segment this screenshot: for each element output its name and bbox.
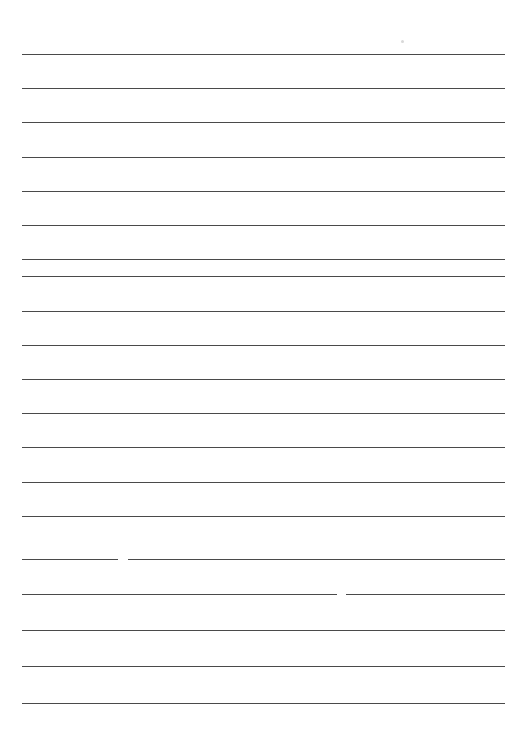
rule-line [22, 225, 505, 226]
rule-line [22, 311, 505, 312]
rule-line [22, 482, 505, 483]
rule-line [22, 447, 505, 448]
rule-line [22, 122, 505, 123]
rule-line [22, 379, 505, 380]
rule-line [22, 666, 505, 667]
rule-line [22, 54, 505, 55]
rule-line [22, 703, 505, 704]
rule-line-segment [22, 594, 337, 595]
rule-line [22, 191, 505, 192]
rule-line [22, 276, 505, 277]
lined-paper-page [0, 0, 525, 729]
rule-line [22, 88, 505, 89]
rule-line [22, 345, 505, 346]
rule-line [22, 630, 505, 631]
rule-line [22, 259, 505, 260]
rule-line [22, 157, 505, 158]
scan-speck [401, 40, 404, 43]
rule-line-segment [346, 594, 505, 595]
rule-line [22, 516, 505, 517]
writing-area[interactable] [0, 0, 525, 729]
rule-line-segment [22, 559, 118, 560]
rule-line [22, 413, 505, 414]
rule-line-segment [128, 559, 505, 560]
